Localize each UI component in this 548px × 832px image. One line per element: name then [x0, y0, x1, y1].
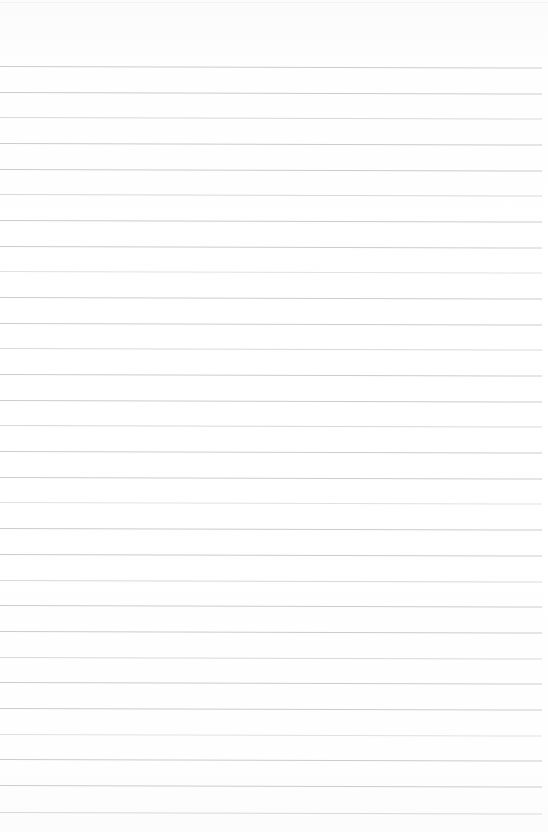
notebook-page: [0, 0, 548, 832]
writing-area[interactable]: [0, 0, 548, 832]
